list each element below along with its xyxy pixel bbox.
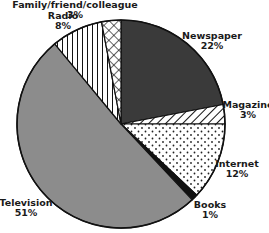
label-books-pct: 1%: [202, 209, 219, 220]
label-radio-pct: 8%: [55, 20, 72, 31]
label-television-pct: 51%: [15, 207, 38, 218]
label-internet-pct: 12%: [226, 168, 249, 179]
label-newspaper-pct: 22%: [201, 40, 224, 51]
label-magazine-pct: 3%: [240, 109, 257, 120]
pie-chart: Family/friend/colleague 3% Radio 8% News…: [0, 0, 269, 233]
